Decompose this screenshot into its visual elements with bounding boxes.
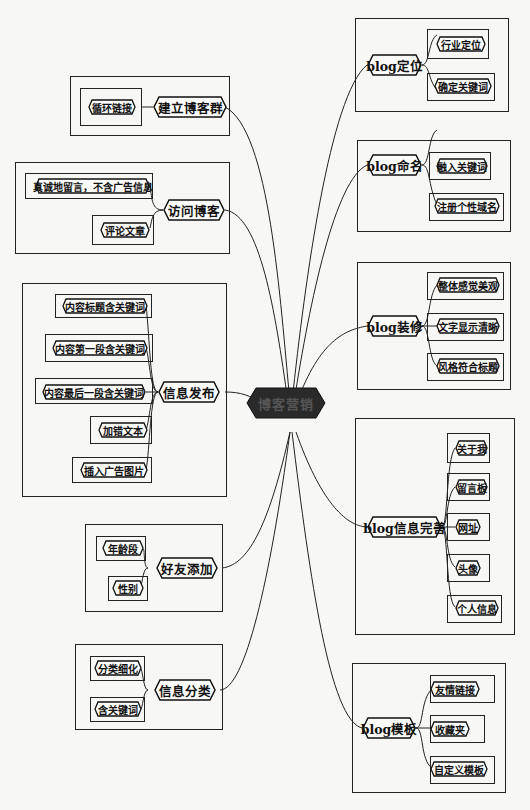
leaf-label: 含关键词	[94, 701, 142, 717]
branch-classify-info[interactable]: 信息分类	[154, 679, 216, 701]
leaf-node[interactable]: 关于我	[455, 440, 488, 456]
leaf-label: 行业定位	[436, 36, 486, 52]
leaf-label: 注册个性域名	[434, 198, 500, 214]
leaf-node[interactable]: 注册个性域名	[434, 198, 500, 214]
leaf-label: 评论文章	[100, 222, 150, 238]
center-node[interactable]: 博客营销	[246, 387, 326, 419]
leaf-label: 友情链接	[430, 681, 480, 697]
leaf-label: 融入关键词	[436, 158, 488, 174]
leaf-node[interactable]: 个人信息	[455, 600, 499, 616]
leaf-label: 留言板	[455, 479, 488, 495]
branch-add-friends[interactable]: 好友添加	[156, 557, 218, 579]
leaf-node[interactable]: 友情链接	[430, 681, 480, 697]
branch-label: 好友添加	[156, 557, 218, 579]
branch-visit-blogs[interactable]: 访问博客	[163, 199, 225, 221]
leaf-label: 文字显示清晰	[436, 318, 500, 334]
leaf-node[interactable]: 融入关键词	[436, 158, 488, 174]
leaf-node[interactable]: 网址	[455, 519, 481, 535]
leaf-node[interactable]: 行业定位	[436, 36, 486, 52]
leaf-label: 年龄段	[102, 540, 144, 556]
branch-blog-decoration[interactable]: blog装修	[367, 315, 422, 337]
leaf-label: 确定关键词	[434, 78, 492, 94]
leaf-node[interactable]: 整体感觉美观	[436, 277, 500, 293]
branch-build-blog-group[interactable]: 建立博客群	[153, 96, 227, 118]
branch-label: blog定位	[367, 54, 422, 76]
leaf-node[interactable]: 循环链接	[88, 99, 136, 115]
leaf-node[interactable]: 分类细化	[94, 660, 142, 676]
leaf-label: 收藏夹	[430, 721, 470, 737]
leaf-label: 自定义模板	[430, 761, 488, 777]
leaf-label: 风格符合标题	[436, 358, 500, 374]
leaf-label: 网址	[455, 519, 481, 535]
leaf-node[interactable]: 评论文章	[100, 222, 150, 238]
leaf-node[interactable]: 性别	[112, 580, 144, 596]
branch-label: blog模板	[362, 717, 416, 739]
leaf-node[interactable]: 收藏夹	[430, 721, 470, 737]
branch-label: blog信息完善	[367, 516, 442, 538]
branch-label: 信息发布	[158, 381, 220, 403]
leaf-node[interactable]: 文字显示清晰	[436, 318, 500, 334]
leaf-label: 循环链接	[88, 99, 136, 115]
branch-label: 信息分类	[154, 679, 216, 701]
branch-blog-naming[interactable]: blog命名	[367, 154, 422, 176]
branch-label: 建立博客群	[153, 96, 227, 118]
leaf-node[interactable]: 真诚地留言，不含广告信息	[35, 178, 150, 194]
leaf-label: 插入广告图片	[80, 462, 148, 478]
leaf-node[interactable]: 风格符合标题	[436, 358, 500, 374]
leaf-node[interactable]: 自定义模板	[430, 761, 488, 777]
leaf-label: 关于我	[455, 440, 488, 456]
leaf-label: 内容第一段含关键词	[52, 340, 148, 356]
leaf-label: 加错文本	[98, 422, 148, 438]
leaf-label: 内容标题含关键词	[62, 298, 148, 314]
branch-blog-info[interactable]: blog信息完善	[367, 516, 442, 538]
branch-blog-positioning[interactable]: blog定位	[367, 54, 422, 76]
leaf-node[interactable]: 内容标题含关键词	[62, 298, 148, 314]
leaf-label: 真诚地留言，不含广告信息	[35, 178, 150, 194]
leaf-node[interactable]: 确定关键词	[434, 78, 492, 94]
leaf-node[interactable]: 头像	[455, 560, 481, 576]
branch-label: 访问博客	[163, 199, 225, 221]
leaf-node[interactable]: 内容第一段含关键词	[52, 340, 148, 356]
leaf-label: 性别	[112, 580, 144, 596]
leaf-node[interactable]: 加错文本	[98, 422, 148, 438]
leaf-node[interactable]: 内容最后一段含关键词	[42, 384, 146, 400]
leaf-node[interactable]: 留言板	[455, 479, 488, 495]
branch-label: blog装修	[367, 315, 422, 337]
leaf-node[interactable]: 年龄段	[102, 540, 144, 556]
leaf-node[interactable]: 含关键词	[94, 701, 142, 717]
leaf-label: 个人信息	[455, 600, 499, 616]
leaf-label: 内容最后一段含关键词	[42, 384, 146, 400]
leaf-label: 头像	[455, 560, 481, 576]
center-node-label: 博客营销	[246, 387, 326, 419]
branch-blog-template[interactable]: blog模板	[362, 717, 416, 739]
branch-publish-info[interactable]: 信息发布	[158, 381, 220, 403]
leaf-label: 分类细化	[94, 660, 142, 676]
branch-label: blog命名	[367, 154, 422, 176]
leaf-node[interactable]: 插入广告图片	[80, 462, 148, 478]
leaf-label: 整体感觉美观	[436, 277, 500, 293]
